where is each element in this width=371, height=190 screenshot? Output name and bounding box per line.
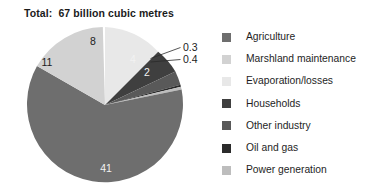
legend-label-evaporation-losses: Evaporation/losses (246, 76, 333, 86)
pie-svg: 8 11 4 2 41 0.3 0.4 (0, 18, 215, 190)
pie-chart-figure: Total: 67 billion cubic metres (0, 0, 371, 190)
legend-swatch-evaporation-losses (222, 77, 231, 86)
pie-slices (27, 27, 183, 182)
chart-legend: Agriculture Marshland maintenance Evapor… (222, 26, 371, 181)
legend-item-evaporation-losses[interactable]: Evaporation/losses (222, 70, 371, 92)
legend-item-other-industry[interactable]: Other industry (222, 115, 371, 137)
legend-label-other-industry: Other industry (246, 121, 311, 131)
legend-label-households: Households (246, 99, 300, 109)
legend-item-households[interactable]: Households (222, 93, 371, 115)
legend-label-power-generation: Power generation (246, 165, 327, 175)
legend-item-marshland-maintenance[interactable]: Marshland maintenance (222, 48, 371, 70)
pie-label-power-generation: 0.4 (183, 53, 198, 65)
legend-swatch-power-generation (222, 166, 231, 175)
legend-swatch-other-industry (222, 121, 231, 130)
legend-item-oil-and-gas[interactable]: Oil and gas (222, 137, 371, 159)
legend-label-oil-and-gas: Oil and gas (246, 143, 298, 153)
pie-label-other-industry: 2 (144, 66, 150, 78)
legend-label-agriculture: Agriculture (246, 32, 295, 42)
legend-item-power-generation[interactable]: Power generation (222, 159, 371, 181)
legend-swatch-marshland-maintenance (222, 55, 231, 64)
pie-label-households: 4 (130, 53, 136, 65)
pie-label-agriculture: 41 (100, 162, 112, 174)
legend-swatch-oil-and-gas (222, 144, 231, 153)
legend-item-agriculture[interactable]: Agriculture (222, 26, 371, 48)
pie-label-evaporation-losses: 8 (90, 35, 96, 47)
legend-swatch-households (222, 99, 231, 108)
pie-plot-area: 8 11 4 2 41 0.3 0.4 (0, 18, 215, 190)
legend-label-marshland-maintenance: Marshland maintenance (246, 54, 356, 64)
pie-label-marshland-maintenance: 11 (42, 56, 53, 68)
legend-swatch-agriculture (222, 33, 231, 42)
pie-label-oil-and-gas: 0.3 (183, 41, 198, 53)
